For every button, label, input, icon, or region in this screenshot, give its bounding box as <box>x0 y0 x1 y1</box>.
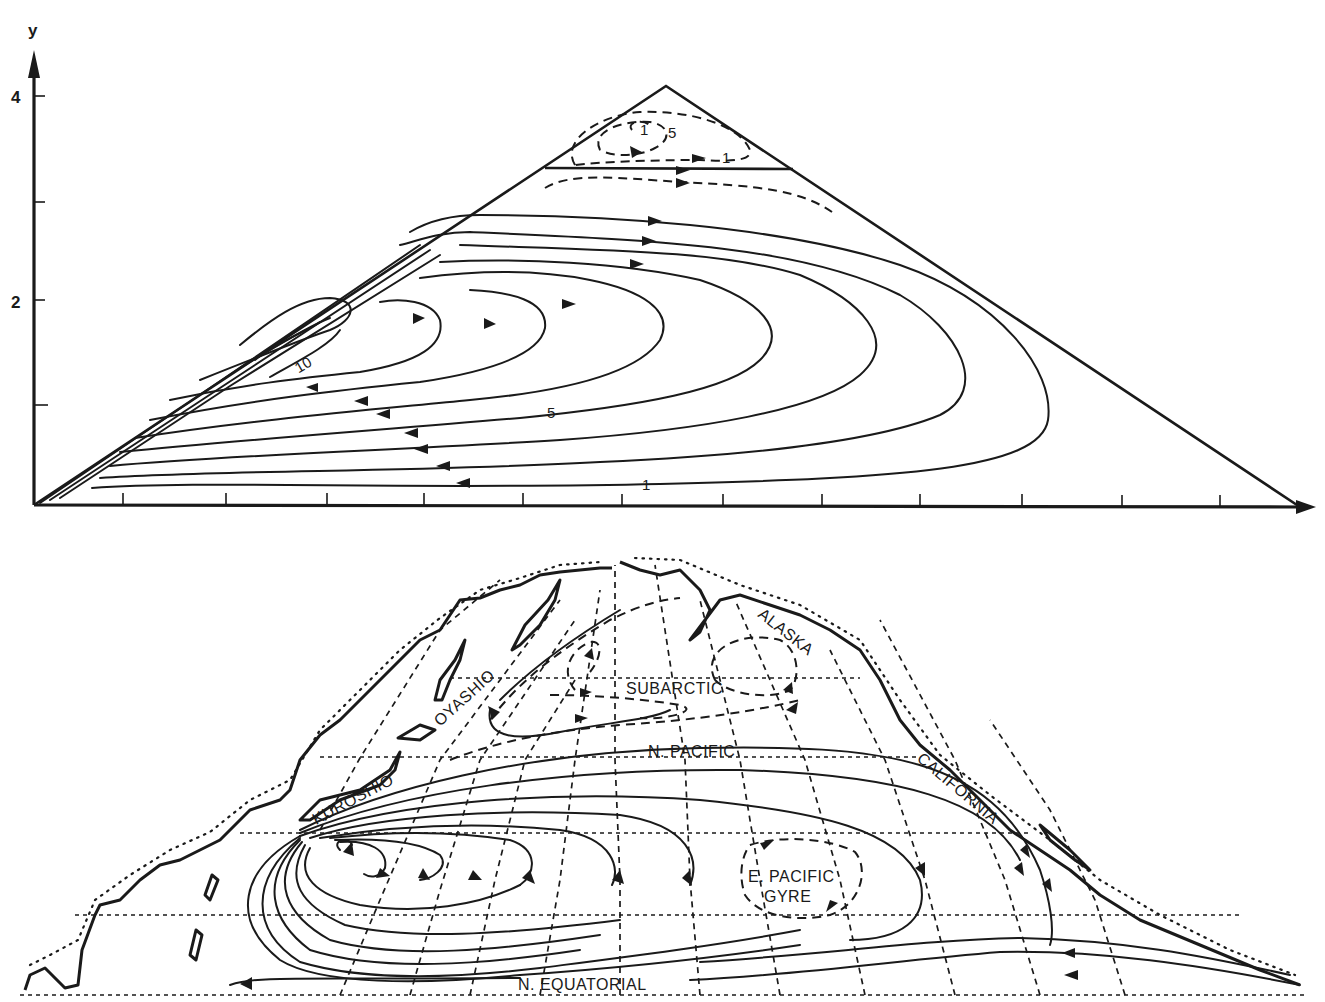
graticule <box>20 565 1305 995</box>
y-axis: y 4 2 <box>11 21 48 505</box>
map-panel: ALASKA SUBARCTIC OYASHIO N. PACIFIC KURO… <box>20 558 1305 995</box>
contour-label-gyre-5: 5 <box>547 404 555 421</box>
coastlines <box>25 558 1300 990</box>
y-tick-label-4: 4 <box>11 88 21 107</box>
main-gyre-streamlines: 10 5 1 <box>40 215 1049 503</box>
label-subarctic: SUBARCTIC <box>626 680 723 697</box>
label-n-equatorial: N. EQUATORIAL <box>518 976 647 993</box>
label-oyashio: OYASHIO <box>431 666 498 729</box>
upper-gyre: 1 5 1 <box>545 112 832 212</box>
subarctic-gyres <box>450 598 800 760</box>
contour-label-gyre-1: 1 <box>642 476 650 493</box>
contour-label-upper-outer-1: 1 <box>722 149 730 166</box>
label-gyre: GYRE <box>764 888 811 905</box>
contour-label-upper-5: 5 <box>668 124 676 141</box>
basin-partition <box>545 168 793 169</box>
model-panel: y 4 2 <box>11 21 1316 514</box>
triangle-basin <box>34 86 1300 507</box>
y-axis-label: y <box>28 21 38 40</box>
x-axis <box>34 493 1316 514</box>
label-n-pacific: N. PACIFIC <box>648 743 735 760</box>
label-california: CALIFORNIA <box>914 749 1002 827</box>
y-tick-label-2: 2 <box>11 293 20 312</box>
y-axis-arrow-icon <box>28 50 40 78</box>
label-alaska: ALASKA <box>755 605 817 659</box>
contour-label-upper-1: 1 <box>640 121 648 138</box>
ocean-circulation-figure: y 4 2 <box>0 0 1325 1002</box>
label-e-pacific: E. PACIFIC <box>748 868 835 885</box>
contour-label-gyre-10: 10 <box>292 353 315 376</box>
